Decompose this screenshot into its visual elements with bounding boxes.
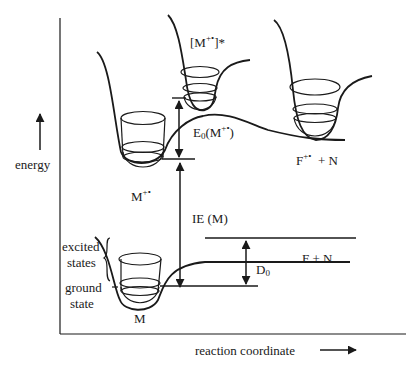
excited-label: excited [62,240,100,253]
excited-ion-potential-curve [168,15,250,110]
excited-ion-label: [M+•]* [190,34,225,49]
ion-label: M+• [131,188,151,203]
energy-label: energy [15,158,50,171]
fragment-ion-label: F+• + N [296,152,338,167]
reaction-coordinate-label: reaction coordinate [195,344,295,357]
energy-diagram [0,0,412,366]
ion-potential-curve [97,52,345,163]
ground-label: ground [65,281,102,294]
states-label: states [67,256,96,269]
neutral-label: M [134,312,146,325]
neutral-fragments-label: F + N [302,252,332,265]
ie-label: IE (M) [192,212,228,225]
state-label: state [70,297,94,310]
d0-label: D0 [256,263,270,278]
e0-label: E0(M+•) [193,124,234,141]
neutral-potential-curve [95,237,350,310]
